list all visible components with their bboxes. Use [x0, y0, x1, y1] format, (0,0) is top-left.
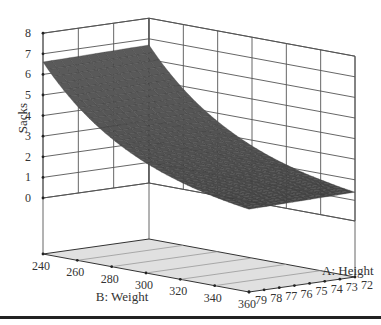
y-tick-label: 78	[270, 291, 282, 305]
y-tick-mark	[323, 280, 326, 283]
z-tick-label: 6	[25, 67, 31, 81]
z-tick-mark	[42, 52, 45, 55]
x-tick-label: 280	[101, 272, 119, 286]
y-tick-mark	[293, 284, 296, 287]
y-tick-label: 72	[361, 278, 373, 292]
x-tick-label: 320	[169, 284, 187, 298]
z-tick-mark	[42, 94, 45, 97]
x-axis-label: B: Weight	[96, 289, 149, 304]
x-tick-mark	[76, 259, 79, 262]
y-tick-mark	[338, 278, 341, 281]
y-tick-label: 76	[300, 287, 312, 301]
bottom-rule	[0, 316, 381, 319]
z-tick-label: 8	[25, 26, 31, 40]
y-tick-label: 77	[285, 289, 297, 303]
y-tick-label: 74	[331, 282, 343, 296]
z-tick-mark	[42, 197, 45, 200]
y-axis-label: A: Height	[322, 263, 374, 278]
x-tick-label: 240	[32, 259, 50, 273]
x-tick-label: 340	[204, 291, 222, 305]
x-tick-mark	[179, 278, 182, 281]
x-tick-mark	[145, 272, 148, 275]
z-tick-label: 5	[25, 88, 31, 102]
z-axis-label: Sacks	[15, 103, 30, 133]
y-tick-mark	[308, 282, 311, 285]
x-tick-mark	[213, 284, 216, 287]
z-tick-label: 7	[25, 47, 31, 61]
x-tick-mark	[110, 265, 113, 268]
surface-chart: 0123456782402602803003203403607273747576…	[0, 0, 381, 325]
z-tick-label: 1	[25, 170, 31, 184]
z-tick-mark	[42, 176, 45, 179]
z-tick-label: 2	[25, 150, 31, 164]
y-tick-mark	[263, 288, 266, 291]
x-tick-mark	[42, 253, 45, 256]
z-tick-mark	[42, 114, 45, 117]
z-tick-label: 0	[25, 191, 31, 205]
y-tick-mark	[248, 291, 251, 294]
z-tick-mark	[42, 73, 45, 76]
y-tick-label: 79	[255, 293, 267, 307]
z-tick-mark	[42, 135, 45, 138]
y-tick-label: 75	[316, 284, 328, 298]
y-tick-label: 73	[346, 280, 358, 294]
x-tick-label: 360	[238, 297, 256, 311]
z-tick-mark	[42, 155, 45, 158]
x-tick-label: 260	[66, 265, 84, 279]
y-tick-mark	[278, 286, 281, 289]
z-tick-mark	[42, 32, 45, 35]
floor-plane	[43, 239, 355, 292]
